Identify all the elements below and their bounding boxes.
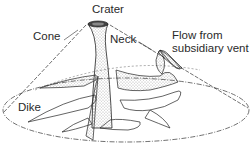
volcano-illustration (0, 0, 252, 146)
volcano-diagram: Crater Cone Neck Flow from subsidiary ve… (0, 0, 252, 146)
flow-label-line1: Flow from (172, 29, 249, 42)
neck-label: Neck (110, 33, 136, 45)
cone-label: Cone (33, 30, 61, 42)
crater-label: Crater (92, 3, 124, 15)
flow-label-line2: subsidiary vent (172, 42, 249, 55)
leader-lines (64, 30, 152, 50)
flow-label: Flow from subsidiary vent (172, 29, 249, 55)
dike-label: Dike (18, 101, 41, 113)
